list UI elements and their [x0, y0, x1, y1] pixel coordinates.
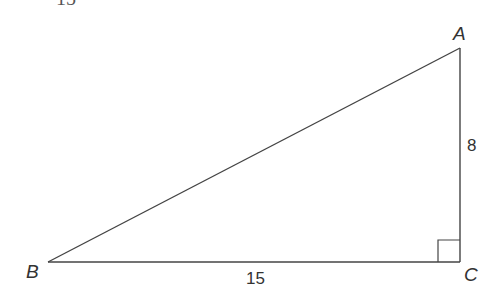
side-ab [48, 48, 460, 262]
vertex-label-b: B [26, 262, 39, 281]
triangle-diagram [0, 0, 490, 304]
right-angle-marker [438, 240, 460, 262]
vertex-label-a: A [453, 24, 466, 43]
vertex-label-c: C [464, 265, 478, 284]
side-label-bc: 15 [246, 270, 265, 287]
side-label-ac: 8 [467, 137, 476, 154]
